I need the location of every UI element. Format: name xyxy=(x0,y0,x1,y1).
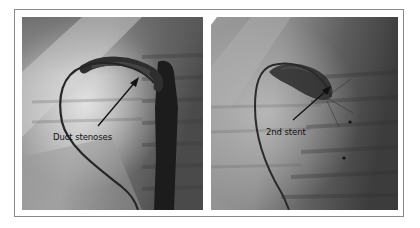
left-angiogram-image xyxy=(22,17,203,210)
right-angiogram-panel: 2nd stent xyxy=(211,17,398,210)
duct-stenoses-label: Duct stenoses xyxy=(53,132,112,142)
second-stent-label: 2nd stent xyxy=(266,127,306,137)
left-angiogram-panel: Duct stenoses xyxy=(22,17,203,210)
right-angiogram-image xyxy=(211,17,398,210)
